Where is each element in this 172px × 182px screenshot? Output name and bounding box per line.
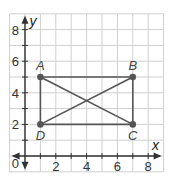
grid-lines xyxy=(10,14,164,172)
y-axis-arrow-down-icon xyxy=(22,162,29,170)
x-tick-label: 2 xyxy=(52,159,59,174)
y-tick-label: 8 xyxy=(12,23,19,38)
x-tick-label: 6 xyxy=(114,159,121,174)
point-label-a: A xyxy=(35,58,45,73)
y-axis-arrow-up-icon xyxy=(22,16,29,24)
origin-label: 0 xyxy=(12,156,19,171)
y-tick-label: 6 xyxy=(12,54,19,69)
x-axis-arrow-right-icon xyxy=(154,153,162,160)
x-tick-label: 8 xyxy=(145,159,152,174)
point-label-c: C xyxy=(128,128,138,143)
point-b xyxy=(130,74,137,81)
labels: 246824680xyABCD xyxy=(12,13,160,174)
point-a xyxy=(37,74,44,81)
coordinate-plane: 246824680xyABCD xyxy=(0,0,172,182)
y-axis-label: y xyxy=(29,13,38,29)
point-label-d: D xyxy=(36,128,45,143)
point-d xyxy=(37,121,44,128)
y-tick-label: 2 xyxy=(12,117,19,132)
x-axis-label: x xyxy=(151,137,160,153)
y-tick-label: 4 xyxy=(12,86,19,101)
point-label-b: B xyxy=(128,58,137,73)
point-c xyxy=(130,121,137,128)
x-tick-label: 4 xyxy=(83,159,90,174)
